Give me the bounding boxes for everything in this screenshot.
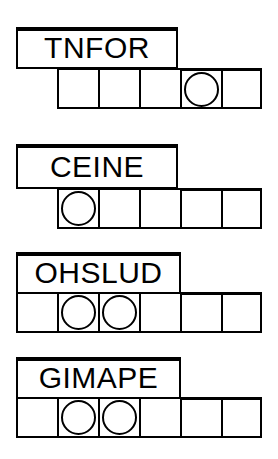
answer-cell-strip (16, 397, 262, 438)
scrambled-word-box: GIMAPE (16, 357, 181, 399)
answer-cell[interactable] (139, 397, 180, 438)
scrambled-word-box: CEINE (16, 144, 178, 189)
answer-cell[interactable] (57, 188, 98, 229)
scrambled-word-box: OHSLUD (16, 252, 181, 294)
answer-cell[interactable] (98, 188, 139, 229)
answer-cell[interactable] (139, 68, 180, 109)
circle-marker-icon (102, 400, 137, 435)
answer-cell[interactable] (98, 292, 139, 333)
answer-cell[interactable] (221, 292, 262, 333)
answer-cell-strip (57, 188, 262, 229)
answer-cell[interactable] (221, 188, 262, 229)
scrambled-word-text: TNFOR (44, 33, 150, 63)
answer-cell[interactable] (98, 397, 139, 438)
answer-cell[interactable] (180, 397, 221, 438)
answer-cell-strip (57, 68, 262, 109)
answer-cell[interactable] (16, 397, 57, 438)
circle-marker-icon (61, 295, 96, 330)
answer-cell[interactable] (16, 292, 57, 333)
scrambled-word-text: CEINE (50, 152, 144, 182)
answer-cell-strip (16, 292, 262, 333)
circle-marker-icon (102, 295, 137, 330)
circle-marker-icon (184, 72, 219, 107)
scrambled-word-text: OHSLUD (34, 258, 162, 288)
scrambled-word-box: TNFOR (16, 27, 178, 69)
answer-cell[interactable] (57, 292, 98, 333)
answer-cell[interactable] (180, 68, 221, 109)
circle-marker-icon (61, 400, 96, 435)
circle-marker-icon (61, 191, 96, 226)
answer-cell[interactable] (139, 292, 180, 333)
answer-cell[interactable] (180, 292, 221, 333)
answer-cell[interactable] (180, 188, 221, 229)
answer-cell[interactable] (57, 397, 98, 438)
answer-cell[interactable] (98, 68, 139, 109)
answer-cell[interactable] (221, 68, 262, 109)
answer-cell[interactable] (221, 397, 262, 438)
puzzle-sheet: TNFOR CEINE (0, 0, 278, 459)
answer-cell[interactable] (57, 68, 98, 109)
answer-cell[interactable] (139, 188, 180, 229)
scrambled-word-text: GIMAPE (39, 363, 159, 393)
